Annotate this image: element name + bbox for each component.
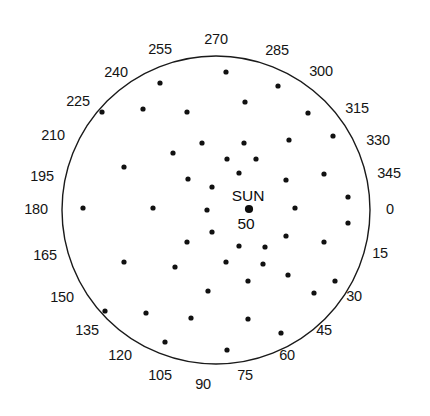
data-point bbox=[275, 83, 280, 88]
data-point bbox=[262, 244, 267, 249]
angle-tick-label-135: 135 bbox=[75, 323, 99, 338]
data-point bbox=[204, 207, 209, 212]
data-point bbox=[102, 308, 107, 313]
data-point bbox=[321, 239, 326, 244]
data-point bbox=[80, 205, 85, 210]
data-point bbox=[278, 330, 283, 335]
data-point bbox=[330, 133, 335, 138]
data-point bbox=[242, 99, 247, 104]
data-point bbox=[253, 156, 258, 161]
data-point bbox=[143, 310, 148, 315]
angle-tick-label-60: 60 bbox=[279, 348, 295, 363]
polar-scatter-chart: 0153045607590105120135150165180195210225… bbox=[0, 0, 430, 416]
angle-tick-label-225: 225 bbox=[66, 94, 90, 109]
data-point bbox=[150, 205, 155, 210]
angle-tick-label-255: 255 bbox=[148, 42, 172, 57]
angle-tick-label-165: 165 bbox=[33, 248, 57, 263]
data-point bbox=[121, 259, 126, 264]
data-point bbox=[286, 137, 291, 142]
data-point bbox=[184, 109, 189, 114]
polar-plot-svg bbox=[0, 0, 430, 416]
angle-tick-label-15: 15 bbox=[372, 246, 388, 261]
angle-tick-label-0: 0 bbox=[386, 202, 394, 217]
data-point bbox=[223, 259, 228, 264]
data-point bbox=[205, 288, 210, 293]
data-points-group bbox=[80, 69, 350, 352]
data-point bbox=[184, 239, 189, 244]
angle-tick-label-240: 240 bbox=[104, 65, 128, 80]
sun-label: SUN bbox=[232, 188, 265, 204]
angle-tick-label-195: 195 bbox=[30, 169, 54, 184]
data-point bbox=[305, 110, 310, 115]
angle-tick-label-330: 330 bbox=[366, 133, 390, 148]
data-point bbox=[345, 194, 350, 199]
angle-tick-label-75: 75 bbox=[237, 368, 253, 383]
sun-value-label: 50 bbox=[237, 216, 254, 232]
angle-tick-label-120: 120 bbox=[108, 348, 132, 363]
data-point bbox=[321, 171, 326, 176]
angle-tick-label-285: 285 bbox=[265, 43, 289, 58]
data-point bbox=[172, 264, 177, 269]
data-point bbox=[236, 243, 241, 248]
data-point bbox=[236, 170, 241, 175]
angle-tick-label-105: 105 bbox=[148, 368, 172, 383]
data-point bbox=[345, 220, 350, 225]
data-point bbox=[292, 205, 297, 210]
sun-center-marker bbox=[245, 205, 253, 213]
angle-tick-label-90: 90 bbox=[195, 377, 211, 392]
angle-tick-label-180: 180 bbox=[24, 202, 48, 217]
data-point bbox=[332, 278, 337, 283]
data-point bbox=[188, 315, 193, 320]
angle-tick-label-300: 300 bbox=[309, 64, 333, 79]
angle-tick-label-270: 270 bbox=[204, 32, 228, 47]
data-point bbox=[209, 229, 214, 234]
data-point bbox=[224, 347, 229, 352]
plot-boundary-circle bbox=[62, 56, 370, 364]
data-point bbox=[283, 233, 288, 238]
data-point bbox=[223, 69, 228, 74]
data-point bbox=[185, 176, 190, 181]
angle-tick-label-345: 345 bbox=[377, 166, 401, 181]
data-point bbox=[245, 278, 250, 283]
data-point bbox=[311, 290, 316, 295]
data-point bbox=[241, 140, 246, 145]
data-point bbox=[121, 164, 126, 169]
angle-tick-label-210: 210 bbox=[41, 128, 65, 143]
data-point bbox=[224, 156, 229, 161]
data-point bbox=[245, 316, 250, 321]
data-point bbox=[162, 339, 167, 344]
data-point bbox=[99, 109, 104, 114]
angle-tick-label-30: 30 bbox=[346, 289, 362, 304]
data-point bbox=[209, 184, 214, 189]
angle-tick-label-150: 150 bbox=[50, 290, 74, 305]
data-point bbox=[283, 177, 288, 182]
data-point bbox=[199, 140, 204, 145]
data-point bbox=[170, 150, 175, 155]
angle-tick-label-45: 45 bbox=[316, 323, 332, 338]
data-point bbox=[140, 106, 145, 111]
angle-tick-label-315: 315 bbox=[345, 101, 369, 116]
data-point bbox=[260, 261, 265, 266]
data-point bbox=[285, 272, 290, 277]
data-point bbox=[157, 80, 162, 85]
